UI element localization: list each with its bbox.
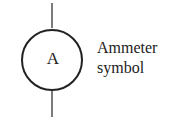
label-line-1: Ammeter	[97, 38, 157, 58]
ammeter-letter: A	[45, 49, 61, 69]
label-line-2: symbol	[97, 58, 157, 78]
symbol-label: Ammeter symbol	[97, 38, 157, 78]
